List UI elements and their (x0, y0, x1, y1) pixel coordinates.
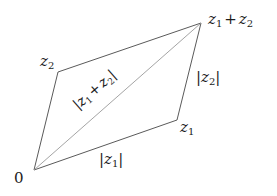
modulus-sum-label: |z1+z2| (69, 66, 120, 113)
edge-z2-to-0 (34, 72, 58, 170)
z1-label: z1 (179, 118, 194, 137)
sum-label: z1+z2 (207, 10, 253, 29)
origin-label: 0 (14, 169, 24, 187)
parallelogram-diagram: 0 z1 z2 z1+z2 |z1| |z2| |z1+z2| (0, 0, 277, 196)
modulus-z2-label: |z2| (196, 68, 220, 87)
z2-label: z2 (39, 52, 54, 71)
edge-sum-to-z2 (58, 23, 201, 72)
diagonal-0-to-sum (34, 23, 201, 170)
modulus-z1-label: |z1| (99, 150, 123, 169)
diagram-canvas: 0 z1 z2 z1+z2 |z1| |z2| |z1+z2| (0, 0, 277, 196)
